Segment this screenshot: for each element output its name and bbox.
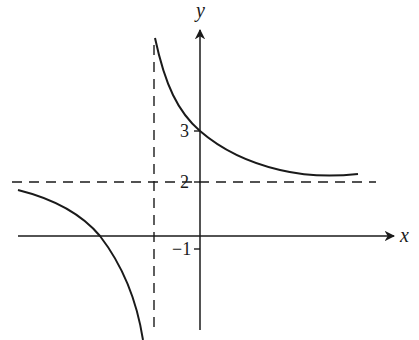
y-axis-label: y (194, 0, 205, 22)
curve-right-branch (155, 38, 358, 176)
tick-label-neg1: −1 (172, 239, 191, 259)
function-graph: y x 3 2 −1 (0, 0, 419, 340)
x-axis-label: x (399, 224, 409, 246)
curve-left-branch (18, 190, 143, 340)
tick-label-3: 3 (180, 121, 189, 141)
tick-label-2: 2 (180, 172, 189, 192)
